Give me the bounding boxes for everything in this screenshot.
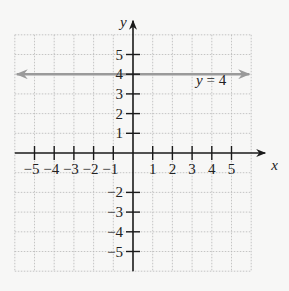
- x-tick-label: −4: [43, 161, 59, 177]
- y-tick-label: −4: [107, 224, 123, 240]
- x-tick-label: −1: [102, 161, 118, 177]
- x-tick-label: 4: [208, 161, 216, 177]
- x-tick-label: 3: [188, 161, 196, 177]
- line-equation-label: y = 4: [194, 72, 227, 88]
- x-tick-label: 1: [149, 161, 157, 177]
- y-tick-label: 2: [116, 106, 124, 122]
- y-tick-label: 5: [116, 47, 124, 63]
- y-tick-label: 4: [116, 66, 124, 82]
- y-tick-label: 3: [116, 86, 124, 102]
- y-tick-label: −2: [107, 184, 123, 200]
- coordinate-plane: −5−4−3−2−112345−5−4−3−212345xyy = 4: [0, 0, 289, 291]
- x-tick-label: 5: [228, 161, 236, 177]
- x-tick-label: −3: [63, 161, 79, 177]
- x-tick-label: 2: [169, 161, 177, 177]
- x-tick-label: −2: [83, 161, 99, 177]
- y-tick-label: −5: [107, 244, 123, 260]
- y-tick-label: 1: [116, 125, 124, 141]
- x-tick-label: −5: [24, 161, 40, 177]
- y-axis-label: y: [118, 14, 127, 30]
- y-tick-label: −3: [107, 204, 123, 220]
- x-axis-label: x: [270, 157, 278, 173]
